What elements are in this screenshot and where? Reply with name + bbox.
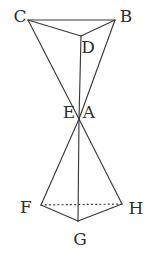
vertex-label-h: H	[129, 200, 144, 217]
vertex-label-g: G	[73, 231, 87, 248]
vertex-label-b: B	[120, 8, 133, 25]
edge-f-h-hidden	[41, 204, 122, 205]
edge-apex-h	[79, 119, 122, 204]
vertex-label-d: D	[81, 39, 95, 56]
vertex-label-c: C	[13, 8, 26, 25]
edge-layer	[28, 20, 122, 221]
edge-f-g	[41, 205, 78, 221]
figure-canvas	[0, 0, 156, 260]
vertex-label-a: A	[83, 104, 95, 121]
geometry-figure: CBDEAFGH	[0, 0, 156, 260]
edge-c-d	[28, 20, 81, 36]
edge-g-h	[78, 204, 122, 221]
vertex-label-e: E	[63, 104, 75, 121]
edge-apex-f	[41, 119, 79, 205]
vertex-label-f: F	[20, 199, 32, 216]
edge-apex-g	[78, 119, 79, 221]
